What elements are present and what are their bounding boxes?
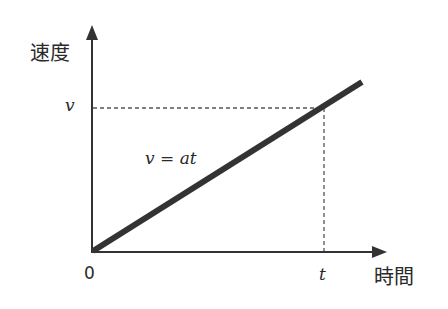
y-axis-arrowhead-icon <box>86 25 98 40</box>
equation-label: v = at <box>145 150 197 167</box>
v-tick-label: v <box>65 97 75 114</box>
origin-label: 0 <box>84 265 95 282</box>
y-axis-label: 速度 <box>30 43 70 63</box>
x-axis-label: 時間 <box>374 267 414 287</box>
velocity-time-diagram: 速度 v v = at 0 t 時間 <box>0 0 448 309</box>
x-axis-arrowhead-icon <box>372 246 387 258</box>
t-tick-label: t <box>319 266 326 283</box>
